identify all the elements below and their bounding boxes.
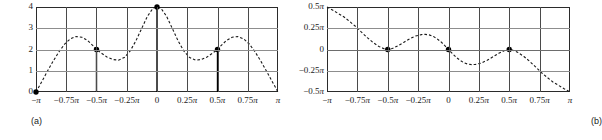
x-tick-label: 0.5π: [210, 96, 226, 105]
x-tick-label: −0.25π: [405, 96, 430, 105]
y-tick-label: 0.25π: [264, 23, 324, 32]
y-tick-label: 3: [0, 23, 33, 32]
plot-area-a: [36, 7, 278, 92]
x-tick-label: π: [276, 96, 281, 105]
y-tick-label: 2: [0, 45, 33, 54]
x-tick-label: −0.25π: [114, 96, 139, 105]
x-tick-label: −π: [322, 96, 332, 105]
x-tick-label: 0.75π: [529, 96, 549, 105]
y-tick-label: 0: [0, 87, 33, 96]
x-tick-label: −π: [31, 96, 41, 105]
plot-area-b: [327, 7, 570, 92]
x-tick-label: π: [568, 96, 573, 105]
x-tick-label: −0.5π: [377, 96, 398, 105]
gridline-horizontal: [327, 71, 570, 72]
y-tick-label: 0: [264, 45, 324, 54]
gridline-horizontal: [36, 50, 278, 51]
x-tick-label: 0: [446, 96, 451, 105]
data-point-marker: [33, 89, 38, 94]
panel-caption-b: (b): [591, 116, 602, 126]
panel-caption-a: (a): [31, 116, 42, 126]
y-tick-label: −0.25π: [264, 66, 324, 75]
x-tick-label: −0.75π: [345, 96, 370, 105]
y-tick-label: −0.5π: [264, 87, 324, 96]
x-tick-label: 0.5π: [501, 96, 517, 105]
y-tick-label: 1: [0, 66, 33, 75]
x-tick-label: 0: [155, 96, 160, 105]
y-tick-label: 4: [0, 2, 33, 11]
gridline-horizontal: [327, 28, 570, 29]
x-tick-label: −0.75π: [54, 96, 79, 105]
gridline-horizontal: [36, 71, 278, 72]
x-tick-label: 0.25π: [177, 96, 197, 105]
chart-panel-a: 01234 −π−0.75π−0.5π−0.25π00.25π0.5π0.75π…: [0, 0, 298, 140]
x-tick-label: 0.25π: [469, 96, 489, 105]
x-tick-label: −0.5π: [86, 96, 107, 105]
y-tick-label: 0.5π: [264, 2, 324, 11]
x-tick-label: 0.75π: [238, 96, 258, 105]
gridline-horizontal: [327, 50, 570, 51]
gridline-horizontal: [36, 28, 278, 29]
chart-panel-b: 0.5π0.25π0−0.25π−0.5π −π−0.75π−0.5π−0.25…: [298, 0, 596, 140]
